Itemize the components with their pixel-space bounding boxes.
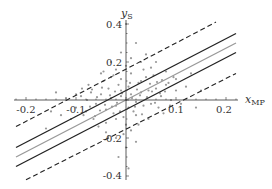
scatter-point (135, 42, 137, 44)
y-tick-label: 0.2 (106, 57, 122, 68)
x-axis-label: xMP (245, 93, 265, 107)
y-axis-label: yS (120, 7, 133, 21)
scatter-point (195, 107, 197, 109)
scatter-point (135, 114, 137, 116)
scatter-point (87, 84, 89, 86)
scatter-point (139, 94, 141, 96)
scatter-point (120, 95, 122, 97)
scatter-point (142, 69, 144, 71)
scatter-point (120, 78, 122, 80)
scatter-point (147, 89, 149, 91)
scatter-point (130, 129, 132, 131)
scatter-point (92, 118, 94, 120)
scatter-point (157, 107, 159, 109)
y-tick-label: -0.2 (103, 133, 122, 144)
scatter-point (97, 126, 99, 128)
scatter-point (150, 67, 152, 69)
scatter-point (162, 112, 164, 114)
scatter-point (109, 94, 111, 96)
scatter-point (130, 93, 132, 95)
scatter-point (115, 69, 117, 71)
scatter-point (100, 93, 102, 95)
scatter-point (154, 102, 156, 104)
scatter-point (145, 53, 147, 55)
scatter-point (130, 57, 132, 59)
scatter-point (120, 51, 122, 53)
scatter-point (100, 72, 102, 74)
y-tick-label: 0.4 (106, 19, 122, 30)
scatter-point (117, 84, 119, 86)
scatter-point (127, 86, 129, 88)
scatter-point (45, 127, 47, 129)
scatter-point (164, 90, 166, 92)
scatter-point (135, 141, 137, 143)
scatter-point (156, 81, 158, 83)
scatter-point (155, 88, 157, 90)
scatter-point (101, 87, 103, 89)
scatter-point (145, 76, 147, 78)
x-tick-label: -0.1 (66, 104, 85, 115)
scatter-points (45, 23, 202, 170)
scatter-point (136, 88, 138, 90)
scatter-point (60, 114, 62, 116)
scatter-point (90, 91, 92, 93)
scatter-point (89, 106, 91, 108)
scatter-point (104, 104, 106, 106)
scatter-point (99, 109, 101, 111)
scatter-point (190, 72, 192, 74)
scatter-point (50, 110, 52, 112)
scatter-point (91, 88, 93, 90)
scatter-point (112, 112, 114, 114)
scatter-point (175, 78, 177, 80)
scatter-point (165, 84, 167, 86)
x-tick-label: -0.2 (16, 104, 35, 115)
scatter-point (137, 124, 139, 126)
scatter-point (150, 103, 152, 105)
scatter-point (122, 133, 124, 135)
scatter-point (155, 61, 157, 63)
scatter-point (102, 70, 104, 72)
scatter-point (151, 90, 153, 92)
scatter-point (114, 90, 116, 92)
y-tick-label: -0.4 (103, 170, 122, 181)
scatter-point (130, 72, 132, 74)
x-tick-label: 0.1 (168, 104, 184, 115)
scatter-point (112, 74, 114, 76)
scatter-point (55, 91, 57, 93)
scatter-point (115, 118, 117, 120)
y-axis-ticks (126, 24, 129, 176)
scatter-point (120, 89, 122, 91)
scatter-point (107, 88, 109, 90)
scatter-point (129, 82, 131, 84)
x-tick-label: 0.2 (216, 104, 232, 115)
scatter-point (141, 113, 143, 115)
scatter-point (80, 95, 82, 97)
scatter-point (142, 105, 144, 107)
prediction-band-line (16, 22, 216, 127)
scatter-point (175, 89, 177, 91)
scatter-point (132, 110, 134, 112)
scatter-point (149, 83, 151, 85)
scatter-point (160, 95, 162, 97)
scatter-chart: -0.2 -0.1 0.1 0.2 0.4 0.2 -0.2 -0.4 yS x… (0, 0, 272, 189)
scatter-point (135, 101, 137, 103)
scatter-point (96, 96, 98, 98)
scatter-point (117, 156, 119, 158)
scatter-point (167, 82, 169, 84)
scatter-point (95, 103, 97, 105)
scatter-point (81, 88, 83, 90)
scatter-point (185, 86, 187, 88)
scatter-point (122, 116, 124, 118)
scatter-point (105, 122, 107, 124)
scatter-point (127, 167, 129, 169)
